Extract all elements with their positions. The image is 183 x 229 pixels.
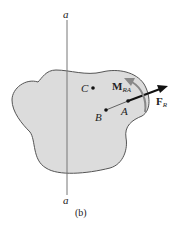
point-b-dot xyxy=(104,108,108,112)
axis-label-top: a xyxy=(63,9,69,20)
axis-label-bottom: a xyxy=(63,195,69,206)
point-a-dot xyxy=(126,99,130,103)
point-c-dot xyxy=(91,86,95,90)
point-b-label: B xyxy=(95,112,102,123)
figure-caption: (b) xyxy=(75,208,87,218)
point-c-label: C xyxy=(81,83,88,94)
force-label: FR xyxy=(156,96,167,109)
moment-label: MRA xyxy=(112,81,131,94)
point-a-label: A xyxy=(121,106,128,117)
rigid-body-diagram xyxy=(0,0,183,229)
force-arrowhead-icon xyxy=(157,85,168,93)
